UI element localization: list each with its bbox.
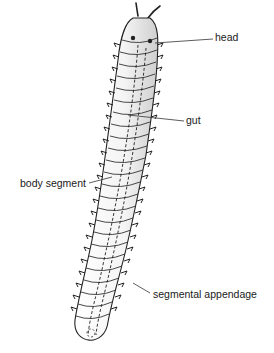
label-gut: gut — [186, 115, 201, 126]
label-body-segment: body segment — [20, 178, 86, 189]
label-head: head — [215, 32, 238, 43]
leader-head — [155, 39, 213, 43]
millipede-diagram: head gut body segment segmental appendag… — [0, 0, 274, 353]
label-segmental-appendage: segmental appendage — [153, 289, 257, 300]
antennae-icon — [136, 3, 160, 18]
body-outline — [75, 18, 158, 340]
leader-appendage — [133, 283, 150, 293]
